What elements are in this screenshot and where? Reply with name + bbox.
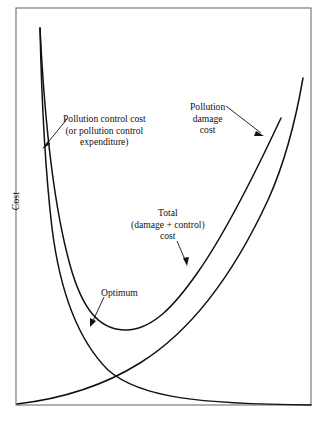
annotation-control-line-3: expenditure) bbox=[63, 136, 146, 148]
annotation-damage-line-1: Pollution bbox=[190, 101, 225, 113]
pollution-cost-figure: Cost Pollution control cost (or pollutio… bbox=[0, 0, 319, 422]
annotation-damage-line-3: cost bbox=[190, 124, 225, 136]
annotation-damage-line-2: damage bbox=[190, 113, 225, 125]
annotation-optimum-line-1: Optimum bbox=[101, 287, 138, 299]
annotation-pollution-damage-cost: Pollution damage cost bbox=[190, 101, 225, 136]
annotation-pollution-control-cost: Pollution control cost (or pollution con… bbox=[63, 113, 146, 148]
annotation-total-line-3: cost bbox=[131, 230, 205, 242]
annotation-optimum: Optimum bbox=[101, 287, 138, 299]
annotation-control-line-2: (or pollution control bbox=[63, 125, 146, 137]
annotation-total-line-1: Total bbox=[131, 207, 205, 219]
y-axis-label: Cost bbox=[11, 171, 21, 231]
annotation-total-line-2: (damage + control) bbox=[131, 219, 205, 231]
annotation-total-cost: Total (damage + control) cost bbox=[131, 207, 205, 242]
annotation-control-line-1: Pollution control cost bbox=[63, 113, 146, 125]
